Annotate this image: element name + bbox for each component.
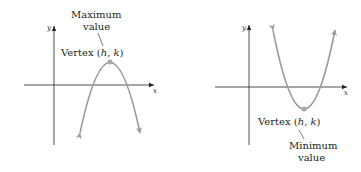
right-vertex-point xyxy=(302,107,307,112)
left-annotation-leader xyxy=(98,33,103,46)
left-annotation-line1: Maximum xyxy=(71,9,122,20)
left-annotation-line2: value xyxy=(82,21,110,32)
left-x-axis-label: x xyxy=(153,87,157,95)
right-graph: x y Vertex (h, k) Minimum value xyxy=(215,24,348,163)
left-graph: x y Vertex (h, k) Maximum value xyxy=(24,9,157,145)
right-annotation-leader xyxy=(299,130,304,139)
right-annotation-line2: value xyxy=(297,152,325,163)
left-y-axis-label: y xyxy=(46,24,52,32)
left-parabola-curve xyxy=(80,63,140,134)
right-vertex-label: Vertex (h, k) xyxy=(257,116,321,127)
right-parabola-curve xyxy=(273,30,335,109)
parabola-diagrams: x y Vertex (h, k) Maximum value x y Vert… xyxy=(0,0,361,172)
right-y-axis-label: y xyxy=(241,24,247,32)
right-x-axis-label: x xyxy=(344,89,348,97)
left-vertex-point xyxy=(108,60,113,65)
right-annotation-line1: Minimum xyxy=(289,140,338,151)
left-vertex-label: Vertex (h, k) xyxy=(60,47,124,58)
